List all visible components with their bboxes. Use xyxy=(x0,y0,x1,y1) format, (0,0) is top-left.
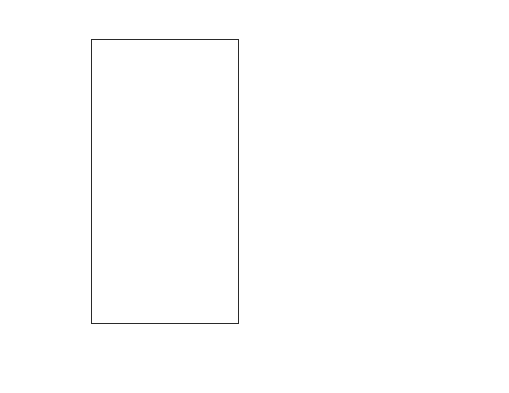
form-window-main-border xyxy=(91,39,239,324)
